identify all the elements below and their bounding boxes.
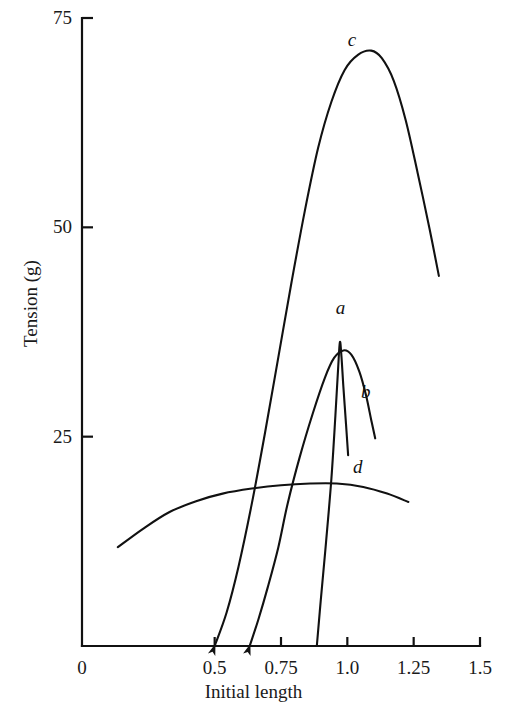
length-tension-chart: 255075 00.50.751.01.251.5 abcd Tension (… bbox=[0, 0, 507, 710]
x-tick-label: 0 bbox=[52, 658, 112, 677]
curve-label-d: d bbox=[353, 457, 363, 476]
x-axis-title: Initial length bbox=[0, 682, 507, 701]
x-tick-label: 0.5 bbox=[185, 658, 245, 677]
curve-label-b: b bbox=[361, 382, 371, 401]
axes-group bbox=[82, 18, 480, 646]
curve-label-a: a bbox=[336, 298, 346, 317]
x-tick-label: 0.75 bbox=[251, 658, 311, 677]
curves-group bbox=[118, 51, 439, 646]
x-tick-label: 1.25 bbox=[384, 658, 444, 677]
curve-c bbox=[215, 51, 439, 646]
x-tick-label: 1.0 bbox=[317, 658, 377, 677]
curve-d bbox=[118, 483, 409, 547]
curve-b bbox=[250, 350, 376, 646]
y-tick-label: 75 bbox=[18, 8, 72, 27]
curve-label-c: c bbox=[348, 30, 356, 49]
y-axis-title: Tension (g) bbox=[21, 214, 40, 394]
y-tick-label: 25 bbox=[18, 427, 72, 446]
x-tick-label: 1.5 bbox=[450, 658, 507, 677]
chart-plot-area bbox=[0, 0, 507, 710]
